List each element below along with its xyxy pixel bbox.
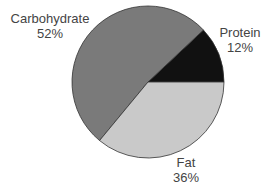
label-carbohydrate: Carbohydrate 52% — [0, 11, 100, 41]
label-protein-value: 12% — [212, 40, 268, 55]
label-carbohydrate-name: Carbohydrate — [0, 11, 100, 26]
label-protein: Protein 12% — [212, 25, 268, 55]
label-carbohydrate-value: 52% — [0, 26, 100, 41]
label-fat-name: Fat — [166, 155, 206, 170]
label-fat-value: 36% — [166, 170, 206, 185]
label-fat: Fat 36% — [166, 155, 206, 185]
label-protein-name: Protein — [212, 25, 268, 40]
